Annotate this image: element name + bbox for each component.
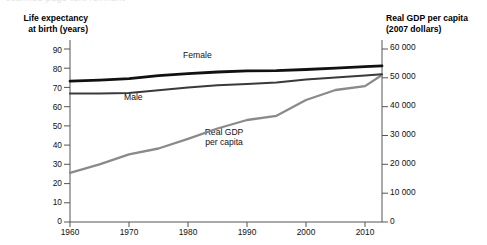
figure-container: scanned page text remnant Life expectanc… bbox=[0, 0, 487, 245]
series-line-female bbox=[70, 66, 382, 81]
series-line-gdp bbox=[70, 75, 382, 173]
x-axis-ticks bbox=[70, 222, 365, 227]
plot-svg bbox=[0, 0, 487, 245]
left-axis-ticks bbox=[64, 49, 70, 222]
series-lines bbox=[70, 66, 382, 173]
